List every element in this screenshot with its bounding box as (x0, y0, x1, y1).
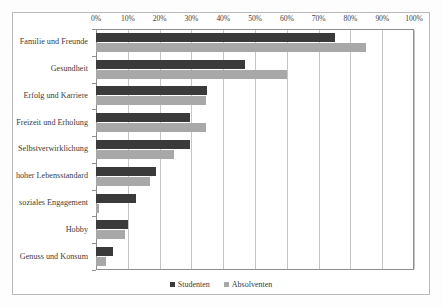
category-label: Freizeit und Erholung (0, 118, 88, 128)
bar-group (96, 56, 414, 83)
legend-swatch-icon (224, 282, 229, 287)
bar-group (96, 109, 414, 136)
bar-studenten (96, 33, 335, 42)
bar-studenten (96, 194, 136, 203)
gridline (414, 30, 415, 269)
category-label: Erfolg und Karriere (0, 91, 88, 101)
legend-item: Absolventen (224, 280, 272, 289)
category-label: Genuss und Konsum (0, 252, 88, 262)
x-tick-label: 30% (185, 14, 199, 23)
bar-absolventen (96, 123, 206, 132)
bar-group (96, 136, 414, 163)
bar-group (96, 83, 414, 110)
bar-group (96, 29, 414, 56)
x-tick-label: 100% (405, 14, 422, 23)
bar-studenten (96, 247, 113, 256)
chart-row: Familie und Freunde (0, 29, 414, 56)
bar-studenten (96, 140, 190, 149)
x-tick-label: 0% (91, 14, 101, 23)
bar-studenten (96, 220, 128, 229)
bar-absolventen (96, 204, 99, 213)
category-label: Familie und Freunde (0, 37, 88, 47)
chart-row: Genuss und Konsum (0, 243, 414, 270)
bar-absolventen (96, 177, 150, 186)
bar-group (96, 163, 414, 190)
x-axis-tick-labels: 0%10%20%30%40%50%60%70%80%90%100% (96, 14, 414, 28)
x-tick-label: 10% (121, 14, 135, 23)
bar-group (96, 190, 414, 217)
bar-absolventen (96, 230, 125, 239)
legend-label: Absolventen (232, 280, 272, 289)
x-tick-label: 80% (344, 14, 358, 23)
chart-row: hoher Lebensstandard (0, 163, 414, 190)
bar-group (96, 243, 414, 270)
x-tick-label: 90% (375, 14, 389, 23)
category-label: Hobby (0, 225, 88, 235)
category-label: Selbstverwirklichung (0, 144, 88, 154)
y-axis-tick (92, 270, 96, 271)
bar-absolventen (96, 96, 206, 105)
x-tick-label: 40% (216, 14, 230, 23)
chart-row: Freizeit und Erholung (0, 109, 414, 136)
x-tick-label: 20% (153, 14, 167, 23)
bar-absolventen (96, 257, 106, 266)
chart-row: Hobby (0, 216, 414, 243)
legend-label: Studenten (178, 280, 210, 289)
chart-figure: 0%10%20%30%40%50%60%70%80%90%100% Famili… (0, 0, 443, 307)
chart-legend: StudentenAbsolventen (12, 280, 430, 289)
x-tick-label: 60% (280, 14, 294, 23)
bar-absolventen (96, 150, 174, 159)
chart-row: Gesundheit (0, 56, 414, 83)
legend-item: Studenten (170, 280, 210, 289)
category-label: soziales Engagement (0, 198, 88, 208)
chart-row: Selbstverwirklichung (0, 136, 414, 163)
chart-row: Erfolg und Karriere (0, 83, 414, 110)
category-label: hoher Lebensstandard (0, 171, 88, 181)
bar-studenten (96, 60, 245, 69)
bar-studenten (96, 167, 156, 176)
bar-absolventen (96, 43, 366, 52)
legend-swatch-icon (170, 282, 175, 287)
category-label: Gesundheit (0, 64, 88, 74)
x-tick-label: 50% (248, 14, 262, 23)
category-rows: Familie und FreundeGesundheitErfolg und … (0, 29, 414, 270)
bar-studenten (96, 113, 190, 122)
x-tick-label: 70% (312, 14, 326, 23)
bar-group (96, 216, 414, 243)
bar-studenten (96, 86, 207, 95)
chart-row: soziales Engagement (0, 190, 414, 217)
bar-absolventen (96, 70, 287, 79)
